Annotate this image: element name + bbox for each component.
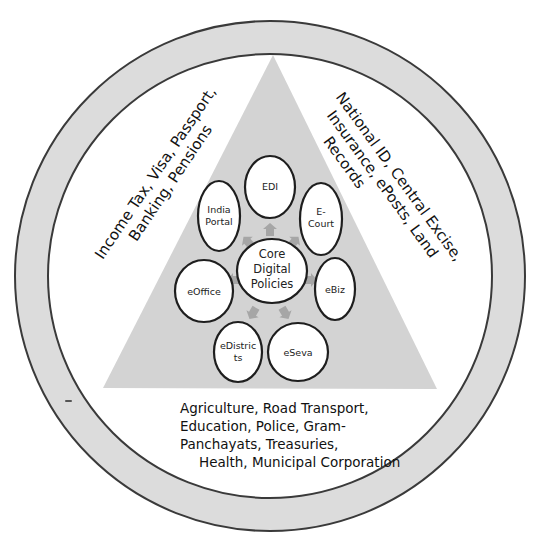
bottom-text-line-4: Health, Municipal Corporation (199, 454, 400, 470)
scan-artifact-mark (65, 400, 72, 402)
node-edistricts-label-2: ts (234, 352, 243, 363)
node-india-portal-label-2: Portal (205, 216, 232, 227)
node-edi-label: EDI (262, 181, 278, 192)
node-edistricts-label-1: eDistric (220, 340, 256, 351)
node-eseva: eSeva (268, 323, 328, 381)
core-label-2: Digital (253, 262, 290, 276)
node-edistricts: eDistric ts (214, 322, 262, 382)
node-eseva-label: eSeva (283, 347, 312, 358)
node-edi: EDI (245, 156, 295, 218)
node-e-court: E- Court (300, 183, 342, 255)
node-e-court-label-1: E- (316, 206, 325, 217)
bottom-text-line-1: Agriculture, Road Transport, (180, 400, 369, 416)
core-node: Core Digital Policies (237, 239, 307, 303)
bottom-text-line-3: Panchayats, Treasuries, (180, 436, 338, 452)
node-india-portal: India Portal (198, 181, 240, 251)
bottom-text-line-2: Education, Police, Gram- (180, 418, 346, 434)
node-ebiz: eBiz (315, 258, 355, 320)
core-label-3: Policies (251, 277, 294, 291)
core-label-1: Core (259, 247, 286, 261)
node-eoffice: eOffice (175, 260, 233, 322)
node-eoffice-label: eOffice (187, 286, 221, 297)
node-india-portal-label-1: India (207, 204, 230, 215)
diagram-canvas: EDI India Portal E- Court eOffice eBiz e… (0, 0, 538, 547)
node-ebiz-label: eBiz (325, 284, 345, 295)
node-e-court-label-2: Court (308, 218, 334, 229)
